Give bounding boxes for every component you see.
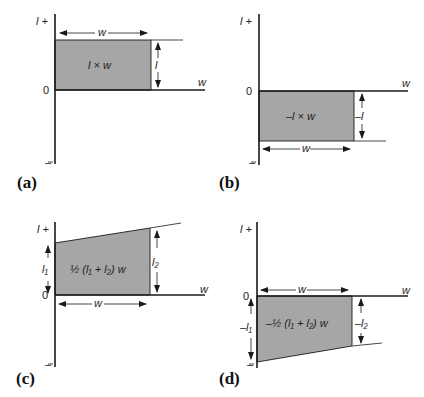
height-label: –l <box>354 110 364 122</box>
x-axis-label: w <box>198 76 207 88</box>
extension-line <box>352 343 382 346</box>
panel-b: l + – 0 w w –l –l × w (b) <box>219 14 411 192</box>
extension-line <box>150 223 181 228</box>
panel-d: l + – 0 w w –l₁ –l₂ –½ (l₁ + l₂) w (d) <box>219 222 411 388</box>
x-axis-label: w <box>402 284 411 296</box>
area-formula: ½ (l₁ + l₂) w <box>70 263 127 275</box>
y-axis-bottom-label: – <box>249 156 256 168</box>
panel-label: (c) <box>16 369 35 388</box>
panel-label: (d) <box>219 369 240 388</box>
width-label: w <box>298 283 307 295</box>
area-formula: l × w <box>88 59 112 71</box>
panel-a: l + – 0 w w l l × w (a) <box>17 14 207 192</box>
y-axis-bottom-label: – <box>247 358 254 370</box>
y-axis-top-label: l + <box>37 223 50 235</box>
y-axis-top-label: l + <box>240 15 253 27</box>
area-trapezoid <box>257 296 352 362</box>
l1-label: l₁ <box>42 263 48 275</box>
area-diagram: l + – 0 w w l l × w (a) l + – 0 w w –l –… <box>0 0 424 397</box>
origin-label: 0 <box>42 289 48 301</box>
l2-label: –l₂ <box>354 317 369 329</box>
y-axis-top-label: l + <box>36 15 49 27</box>
height-label: l <box>155 59 158 71</box>
width-label: w <box>98 26 107 38</box>
x-axis-label: w <box>200 283 209 295</box>
l2-label: l₂ <box>152 256 159 268</box>
l1-label: –l₁ <box>239 321 253 333</box>
x-axis-label: w <box>402 77 411 89</box>
width-label: w <box>302 142 311 154</box>
y-axis-bottom-label: – <box>45 358 52 370</box>
y-axis-bottom-label: – <box>45 156 52 168</box>
area-formula: –½ (l₁ + l₂) w <box>265 317 329 329</box>
panel-label: (b) <box>219 173 240 192</box>
origin-label: 0 <box>246 85 252 97</box>
origin-label: 0 <box>243 290 249 302</box>
y-axis-top-label: l + <box>240 223 253 235</box>
origin-label: 0 <box>43 84 49 96</box>
width-label: w <box>94 297 103 309</box>
panel-label: (a) <box>17 173 37 192</box>
area-formula: –l × w <box>285 110 316 122</box>
area-trapezoid <box>55 228 150 295</box>
panel-c: l + – 0 w w l₁ l₂ ½ (l₁ + l₂) w (c) <box>16 222 209 388</box>
